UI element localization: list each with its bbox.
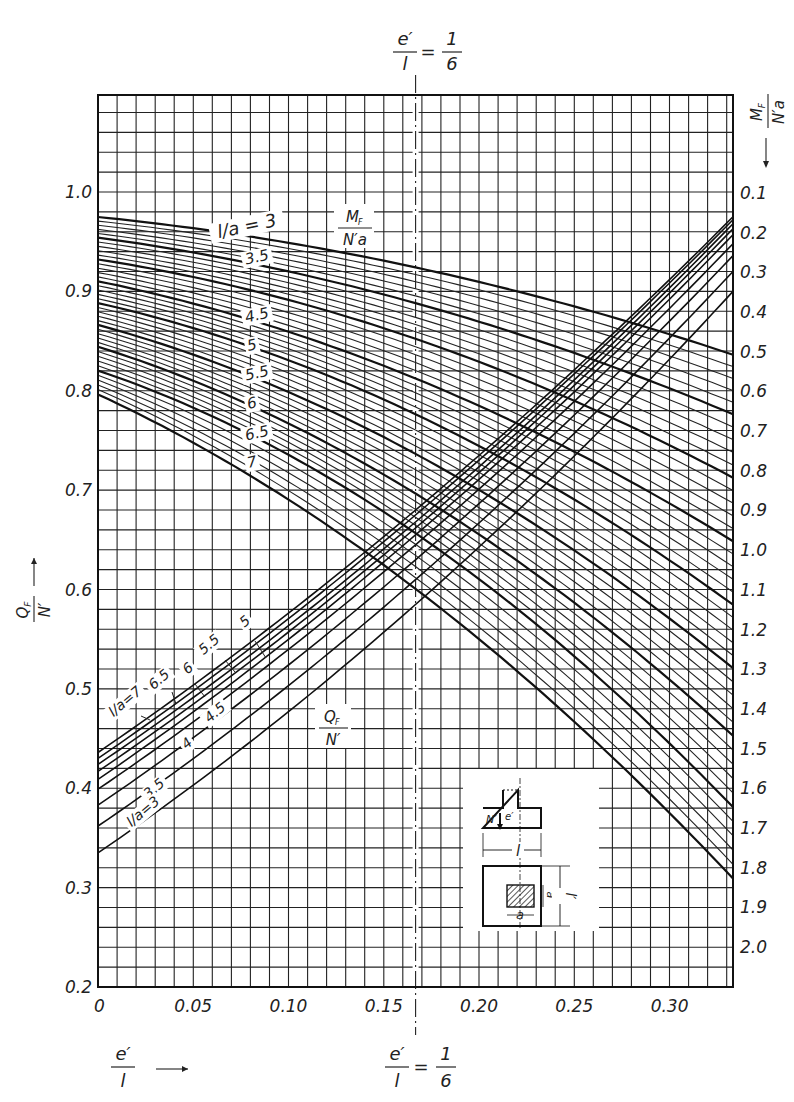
svg-text:0.9: 0.9	[65, 281, 92, 301]
svg-text:0.15: 0.15	[365, 996, 403, 1016]
svg-text:5.5: 5.5	[243, 362, 270, 385]
svg-text:0.9: 0.9	[740, 500, 767, 520]
svg-text:0.6: 0.6	[740, 381, 767, 401]
svg-text:0.7: 0.7	[65, 480, 92, 500]
svg-text:0.2: 0.2	[740, 223, 767, 243]
svg-text:0: 0	[94, 996, 105, 1016]
svg-text:1.6: 1.6	[740, 778, 767, 798]
svg-text:0.10: 0.10	[270, 996, 308, 1016]
svg-text:e′: e′	[389, 1043, 404, 1064]
svg-text:1.5: 1.5	[740, 739, 767, 759]
svg-text:l: l	[394, 1070, 399, 1091]
svg-text:l: l	[402, 53, 407, 74]
svg-text:=: =	[420, 41, 435, 62]
svg-text:N′: N′	[486, 813, 497, 826]
svg-text:1.7: 1.7	[740, 818, 767, 838]
svg-text:0.05: 0.05	[174, 996, 212, 1016]
svg-text:0.3: 0.3	[65, 878, 92, 898]
svg-text:0.25: 0.25	[555, 996, 593, 1016]
y-axis-left-label: QF N′	[14, 558, 54, 622]
svg-text:1.0: 1.0	[65, 182, 92, 202]
svg-text:0.30: 0.30	[651, 996, 689, 1016]
svg-text:N′: N′	[36, 602, 54, 617]
svg-text:a: a	[516, 907, 524, 922]
svg-text:1.1: 1.1	[740, 580, 767, 600]
svg-text:F: F	[335, 718, 340, 727]
svg-text:0.6: 0.6	[65, 580, 92, 600]
svg-text:0.7: 0.7	[740, 421, 767, 441]
svg-text:l/a = 3: l/a = 3	[215, 209, 278, 242]
svg-text:N′: N′	[326, 731, 341, 749]
x-axis-label: e′ l	[111, 1043, 188, 1091]
svg-text:QF: QF	[14, 601, 33, 619]
svg-text:e′: e′	[505, 811, 514, 822]
svg-text:4.5: 4.5	[243, 304, 270, 327]
svg-text:l′: l′	[563, 892, 579, 900]
svg-text:1: 1	[446, 28, 457, 49]
svg-text:0.8: 0.8	[740, 461, 767, 481]
svg-text:2.0: 2.0	[740, 937, 767, 957]
chart: 00.050.100.150.200.250.300.20.30.40.50.6…	[0, 0, 794, 1102]
svg-text:1.0: 1.0	[740, 540, 767, 560]
svg-text:0.3: 0.3	[740, 262, 767, 282]
svg-text:1.9: 1.9	[740, 897, 767, 917]
svg-text:0.8: 0.8	[65, 381, 92, 401]
top-annotation: e′ l = 1 6	[393, 28, 462, 74]
svg-text:0.2: 0.2	[65, 977, 92, 997]
svg-text:6: 6	[446, 53, 457, 74]
svg-text:0.5: 0.5	[65, 679, 92, 699]
footing-inset-diagram: N′e′laa′l′	[463, 769, 599, 931]
svg-text:e′: e′	[397, 28, 412, 49]
svg-text:1.3: 1.3	[740, 659, 767, 679]
svg-text:0.20: 0.20	[460, 996, 498, 1016]
svg-text:N′a: N′a	[343, 231, 367, 249]
bottom-annotation: e′ l = 1 6	[385, 1043, 456, 1091]
svg-text:N′a: N′a	[770, 100, 788, 124]
svg-text:0.1: 0.1	[740, 183, 767, 203]
svg-text:1.4: 1.4	[740, 699, 767, 719]
svg-text:1.2: 1.2	[740, 620, 767, 640]
y-axis-right-label: MF N′a	[748, 94, 788, 128]
svg-text:e′: e′	[115, 1043, 130, 1064]
svg-text:l: l	[120, 1070, 125, 1091]
svg-text:F: F	[358, 218, 363, 227]
svg-text:1.8: 1.8	[740, 858, 767, 878]
svg-text:MF: MF	[748, 102, 767, 121]
svg-text:3.5: 3.5	[243, 246, 270, 269]
svg-text:0.5: 0.5	[740, 342, 767, 362]
svg-text:6.5: 6.5	[243, 422, 270, 445]
svg-text:=: =	[413, 1056, 428, 1077]
y-axis-right-arrow-icon	[763, 138, 769, 168]
svg-text:0.4: 0.4	[740, 302, 767, 322]
svg-text:1: 1	[440, 1043, 451, 1064]
svg-text:6: 6	[440, 1070, 451, 1091]
svg-text:0.4: 0.4	[65, 778, 92, 798]
